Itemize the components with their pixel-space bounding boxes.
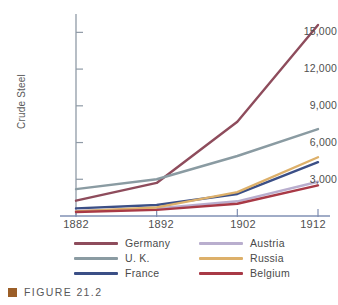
x-tick-label-1882: 1882 <box>51 218 101 230</box>
series-line-u-k <box>76 129 318 189</box>
legend-label-russia: Russia <box>250 252 284 264</box>
x-tick-label-1892: 1892 <box>136 218 186 230</box>
y-axis-ticks <box>76 32 83 179</box>
y-tick-label-3000: 3,000 <box>283 173 337 185</box>
figure-caption: FIGURE 21.2 <box>8 286 102 298</box>
data-series-group <box>76 25 318 212</box>
legend-column-left: Germany U. K. France <box>74 236 170 281</box>
chart-legend: Germany U. K. France Austria Russia <box>0 236 337 282</box>
x-tick-label-1902: 1902 <box>218 218 268 230</box>
legend-swatch-russia <box>199 257 243 260</box>
legend-item-germany: Germany <box>74 236 170 250</box>
y-tick-label-15000: 15,000 <box>283 25 337 37</box>
legend-label-belgium: Belgium <box>250 267 290 279</box>
legend-swatch-belgium <box>199 272 243 275</box>
legend-swatch-austria <box>199 242 243 245</box>
series-line-germany <box>76 25 318 201</box>
y-axis-title: Crude Steel <box>16 62 27 142</box>
line-chart: Crude Steel 15,000 12,000 9,000 6,000 3,… <box>0 0 337 232</box>
y-tick-label-6000: 6,000 <box>283 136 337 148</box>
legend-column-right: Austria Russia Belgium <box>199 236 290 281</box>
y-tick-label-9000: 9,000 <box>283 99 337 111</box>
caption-bullet-icon <box>8 288 17 297</box>
legend-swatch-uk <box>74 257 118 260</box>
caption-text: FIGURE 21.2 <box>24 286 102 298</box>
legend-item-austria: Austria <box>199 236 290 250</box>
legend-item-russia: Russia <box>199 251 290 265</box>
legend-item-belgium: Belgium <box>199 266 290 280</box>
legend-label-uk: U. K. <box>125 252 150 264</box>
legend-swatch-france <box>74 272 118 275</box>
legend-label-austria: Austria <box>250 237 285 249</box>
x-tick-label-1912: 1912 <box>288 218 338 230</box>
legend-swatch-germany <box>74 242 118 245</box>
legend-label-france: France <box>125 267 159 279</box>
legend-label-germany: Germany <box>125 237 170 249</box>
legend-item-uk: U. K. <box>74 251 170 265</box>
legend-item-france: France <box>74 266 170 280</box>
y-tick-label-12000: 12,000 <box>283 62 337 74</box>
